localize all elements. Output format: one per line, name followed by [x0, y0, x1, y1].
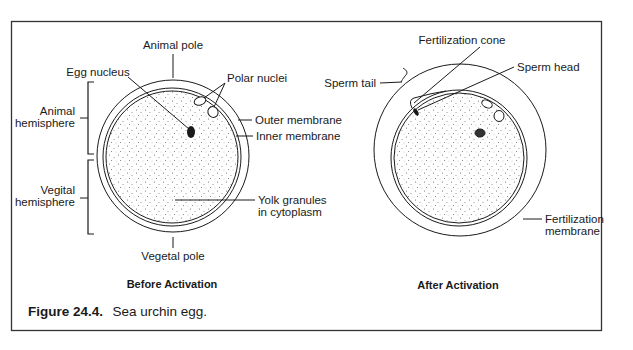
label-animal-pole: Animal pole — [143, 39, 203, 51]
label-vegital-hemisphere-line1: Vegital — [40, 184, 75, 196]
label-sperm-head: Sperm head — [517, 61, 580, 73]
sperm-tail — [401, 68, 407, 82]
caption-number: Figure 24.4. — [28, 304, 103, 319]
label-animal-hemisphere-line2: hemisphere — [15, 117, 75, 129]
label-vegital-hemisphere-line2: hemisphere — [15, 196, 75, 208]
label-animal-hemisphere-line1: Animal — [40, 105, 75, 117]
label-yolk-granules-line2: in cytoplasm — [258, 206, 322, 218]
sea-urchin-egg-figure: Animal pole Egg nucleus Polar nuclei Ani… — [0, 0, 633, 350]
label-polar-nuclei: Polar nuclei — [227, 72, 287, 84]
label-fertilization-membrane-line2: membrane — [545, 225, 600, 237]
label-vegetal-pole: Vegetal pole — [141, 250, 204, 262]
label-fertilization-membrane-line1: Fertilization — [545, 213, 604, 225]
title-before-activation: Before Activation — [127, 278, 218, 290]
label-fertilization-cone: Fertilization cone — [419, 34, 506, 46]
label-sperm-tail: Sperm tail — [324, 77, 376, 89]
label-outer-membrane: Outer membrane — [255, 114, 342, 126]
title-after-activation: After Activation — [417, 279, 499, 291]
label-egg-nucleus: Egg nucleus — [66, 66, 130, 78]
label-inner-membrane: Inner membrane — [256, 130, 340, 142]
egg-after-activation — [374, 47, 546, 236]
figure-caption: Figure 24.4. Sea urchin egg. — [28, 302, 207, 319]
caption-text: Sea urchin egg. — [112, 304, 207, 319]
egg-nucleus — [475, 129, 485, 137]
label-yolk-granules-line1: Yolk granules — [258, 194, 327, 206]
cytoplasm — [394, 93, 524, 223]
